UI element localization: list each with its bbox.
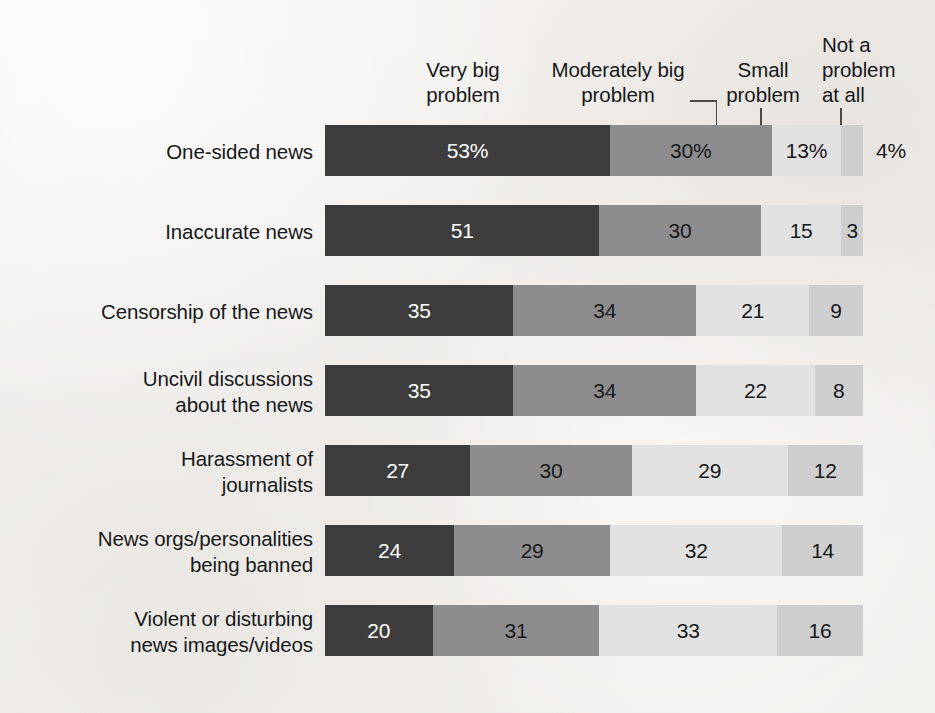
bar-row: Violent or disturbing news images/videos… bbox=[0, 605, 935, 656]
plot-area: One-sided news53%30%13%4%Inaccurate news… bbox=[0, 0, 935, 713]
bar-row: News orgs/personalities being banned2429… bbox=[0, 525, 935, 576]
segment-value-label: 32 bbox=[685, 540, 708, 561]
category-label: Uncivil discussions about the news bbox=[0, 366, 313, 417]
segment-value-label: 15 bbox=[790, 220, 813, 241]
segment-value-label: 4% bbox=[876, 140, 906, 161]
segment-value-label: 34 bbox=[593, 300, 616, 321]
segment-value-label: 51 bbox=[451, 220, 474, 241]
bar-segment: 29 bbox=[632, 445, 788, 496]
bar-segment: 3 bbox=[841, 205, 863, 256]
segment-value-label: 30 bbox=[539, 460, 562, 481]
bar-segment: 13% bbox=[772, 125, 842, 176]
category-label: One-sided news bbox=[0, 139, 313, 165]
segment-value-label: 21 bbox=[741, 300, 764, 321]
bar-segment: 35 bbox=[325, 285, 513, 336]
bar-segment: 14 bbox=[782, 525, 863, 576]
bar-segment: 32 bbox=[610, 525, 782, 576]
stacked-bar: 27302912 bbox=[325, 445, 863, 496]
segment-value-label: 24 bbox=[378, 540, 401, 561]
stacked-bar: 53%30%13%4% bbox=[325, 125, 863, 176]
segment-value-label: 35 bbox=[408, 300, 431, 321]
segment-value-label: 29 bbox=[698, 460, 721, 481]
segment-value-label: 30 bbox=[669, 220, 692, 241]
segment-value-label: 8 bbox=[833, 380, 844, 401]
bar-segment: 24 bbox=[325, 525, 454, 576]
segment-value-label: 14 bbox=[811, 540, 834, 561]
bar-segment: 30 bbox=[470, 445, 631, 496]
stacked-bar: 20313316 bbox=[325, 605, 863, 656]
stacked-bar: 3534228 bbox=[325, 365, 863, 416]
bar-segment: 8 bbox=[815, 365, 863, 416]
stacked-bar-chart: Very big problem Moderately big problem … bbox=[0, 0, 935, 713]
segment-value-label: 31 bbox=[505, 620, 528, 641]
segment-value-label: 35 bbox=[408, 380, 431, 401]
bar-segment: 12 bbox=[788, 445, 863, 496]
bar-row: Inaccurate news5130153 bbox=[0, 205, 935, 256]
bar-segment: 27 bbox=[325, 445, 470, 496]
category-label: Harassment of journalists bbox=[0, 446, 313, 497]
bar-segment: 30% bbox=[610, 125, 771, 176]
category-label: Violent or disturbing news images/videos bbox=[0, 606, 313, 657]
bar-row: One-sided news53%30%13%4% bbox=[0, 125, 935, 176]
segment-value-label: 29 bbox=[521, 540, 544, 561]
category-label: News orgs/personalities being banned bbox=[0, 526, 313, 577]
segment-value-label: 3 bbox=[847, 220, 858, 241]
segment-value-label: 12 bbox=[814, 460, 837, 481]
bar-segment: 51 bbox=[325, 205, 599, 256]
bar-segment: 22 bbox=[696, 365, 814, 416]
bar-segment: 35 bbox=[325, 365, 513, 416]
bar-segment: 34 bbox=[513, 285, 696, 336]
segment-value-label: 22 bbox=[744, 380, 767, 401]
bar-segment: 30 bbox=[599, 205, 760, 256]
stacked-bar: 24293214 bbox=[325, 525, 863, 576]
segment-value-label: 9 bbox=[830, 300, 841, 321]
bar-segment: 16 bbox=[777, 605, 863, 656]
bar-segment: 4% bbox=[841, 125, 863, 176]
bar-segment: 29 bbox=[454, 525, 610, 576]
bar-row: Harassment of journalists27302912 bbox=[0, 445, 935, 496]
category-label: Inaccurate news bbox=[0, 219, 313, 245]
category-label: Censorship of the news bbox=[0, 299, 313, 325]
bar-segment: 31 bbox=[433, 605, 600, 656]
bar-segment: 15 bbox=[761, 205, 842, 256]
segment-value-label: 13% bbox=[786, 140, 827, 161]
segment-value-label: 27 bbox=[386, 460, 409, 481]
bar-row: Uncivil discussions about the news353422… bbox=[0, 365, 935, 416]
bar-segment: 20 bbox=[325, 605, 433, 656]
stacked-bar: 5130153 bbox=[325, 205, 863, 256]
bar-segment: 34 bbox=[513, 365, 696, 416]
segment-value-label: 33 bbox=[677, 620, 700, 641]
segment-value-label: 20 bbox=[367, 620, 390, 641]
segment-value-label: 34 bbox=[593, 380, 616, 401]
bar-segment: 53% bbox=[325, 125, 610, 176]
segment-value-label: 16 bbox=[808, 620, 831, 641]
segment-value-label: 53% bbox=[447, 140, 488, 161]
bar-segment: 21 bbox=[696, 285, 809, 336]
stacked-bar: 3534219 bbox=[325, 285, 863, 336]
bar-segment: 9 bbox=[809, 285, 863, 336]
segment-value-label: 30% bbox=[670, 140, 711, 161]
bar-segment: 33 bbox=[599, 605, 777, 656]
bar-row: Censorship of the news3534219 bbox=[0, 285, 935, 336]
